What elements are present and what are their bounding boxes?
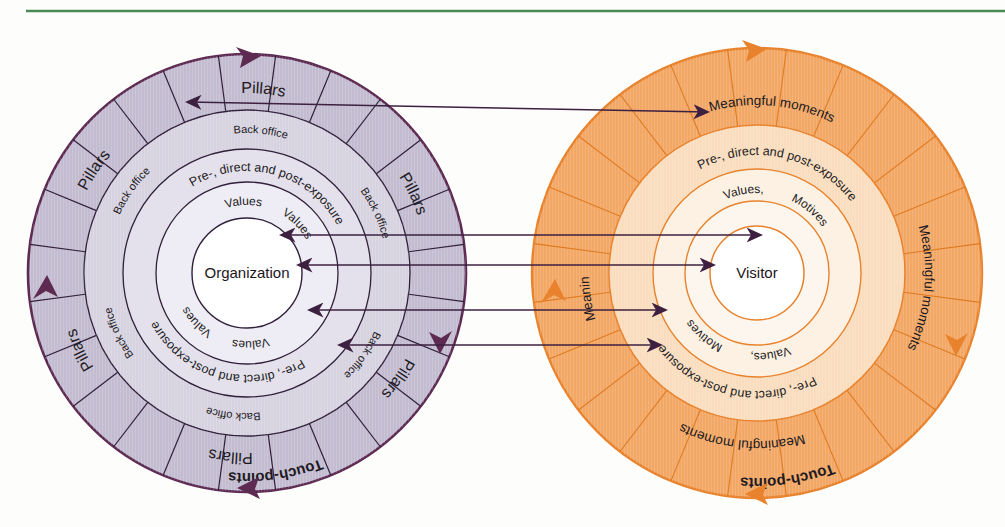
left-circle-organization: Touch-points Pillars Pillars Pillars Pil… [28,47,466,499]
left-center-label: Organization [204,264,289,281]
right-center-label: Visitor [736,264,777,281]
concentric-comparison-diagram: Touch-points Pillars Pillars Pillars Pil… [0,0,1005,527]
diagram-canvas: Touch-points Pillars Pillars Pillars Pil… [0,0,1005,527]
